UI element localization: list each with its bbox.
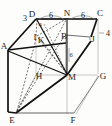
dimension-label-6-vertical: 6: [69, 51, 73, 58]
vertex-label-F: F: [70, 115, 75, 125]
dimension-label-3: 3: [23, 14, 27, 23]
vertex-label-A: A: [1, 41, 8, 51]
geometry-figure: D N C A I K B J H M G E F 3 6 6 4 4 6: [0, 0, 112, 126]
vertex-label-H: H: [36, 71, 43, 81]
dimension-label-6-DN: 6: [49, 11, 53, 20]
light-construction-lines: [16, 18, 98, 114]
vertex-label-K: K: [38, 35, 45, 45]
vertex-label-B: B: [61, 31, 67, 41]
vertex-label-M: M: [68, 72, 76, 82]
vertex-label-N: N: [64, 8, 71, 18]
vertex-labels: D N C A I K B J H M G E F: [1, 8, 107, 125]
geometry-canvas: D N C A I K B J H M G E F 3 6 6 4 4 6: [0, 0, 112, 126]
vertex-label-C: C: [97, 8, 103, 18]
dimension-label-4-below-D: 4: [38, 21, 42, 28]
vertex-label-D: D: [29, 9, 36, 19]
vertex-label-I: I: [34, 32, 37, 42]
vertex-label-G: G: [100, 71, 107, 81]
dimension-label-4-right-J: 4: [106, 29, 110, 38]
vertex-label-J: J: [91, 34, 95, 44]
dimension-label-6-NC: 6: [81, 11, 85, 20]
vertex-label-E: E: [9, 115, 15, 125]
